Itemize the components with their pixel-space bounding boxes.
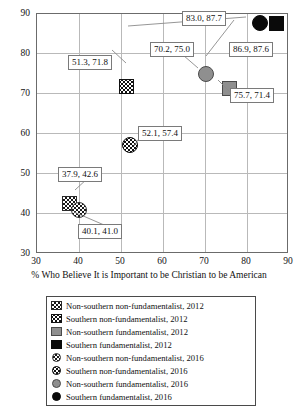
data-point-southern-fundamentalist-2012[interactable] (269, 16, 284, 31)
legend-item[interactable]: Non-southern non-fundamentalist, 2016 (51, 351, 255, 364)
legend-item[interactable]: Southern non-fundamentalist, 2012 (51, 312, 255, 325)
legend-item[interactable]: Southern fundamentalist, 2016 (51, 390, 255, 403)
callout-nonsouthern-fundamentalist-2016: 70.2, 75.0 (150, 42, 194, 57)
callout-southern-nonfundamentalist-2012: 51.3, 71.8 (68, 55, 112, 70)
legend-label: Non-southern fundamentalist, 2012 (66, 327, 188, 337)
legend-item[interactable]: Southern non-fundamentalist, 2016 (51, 364, 255, 377)
y-tick-label: 50 (6, 168, 30, 178)
legend-marker-circle-check-dark-icon (52, 366, 61, 375)
legend-marker-circle-black-icon (52, 392, 61, 401)
legend-marker-square-check-light-icon (51, 301, 62, 310)
data-point-southern-fundamentalist-2016[interactable] (252, 15, 268, 31)
x-tick-label: 90 (273, 256, 298, 266)
gridline-vertical (205, 14, 206, 252)
legend-item[interactable]: Non-southern non-fundamentalist, 2012 (51, 299, 255, 312)
x-tick-label: 30 (21, 256, 51, 266)
legend-label: Southern non-fundamentalist, 2016 (66, 366, 188, 376)
data-point-southern-nonfundamentalist-2012[interactable] (119, 79, 134, 94)
legend-label: Southern fundamentalist, 2016 (66, 392, 172, 402)
legend-marker-square-black-icon (51, 340, 62, 349)
scatter-chart: % Vote for GOP Presidential Candidate 90… (0, 0, 298, 412)
callout-southern-fundamentalist-2012: 86.9, 87.6 (229, 42, 273, 57)
y-tick-label: 90 (6, 8, 30, 18)
y-tick-label: 60 (6, 128, 30, 138)
legend-item[interactable]: Southern fundamentalist, 2012 (51, 338, 255, 351)
legend-marker-circle-check-light-icon (52, 353, 61, 362)
legend-label: Southern fundamentalist, 2012 (66, 340, 172, 350)
legend-label: Non-southern fundamentalist, 2016 (66, 379, 188, 389)
x-tick-label: 60 (147, 256, 177, 266)
legend-item[interactable]: Non-southern fundamentalist, 2016 (51, 377, 255, 390)
callout-nonsouthern-fundamentalist-2012: 75.7, 71.4 (230, 88, 274, 103)
legend-item[interactable]: Non-southern fundamentalist, 2012 (51, 325, 255, 338)
legend-label: Non-southern non-fundamentalist, 2016 (66, 353, 204, 363)
y-tick-label: 40 (6, 208, 30, 218)
legend-marker-square-gray-icon (51, 327, 62, 336)
callout-southern-fundamentalist-2016: 83.0, 87.7 (182, 11, 226, 26)
x-tick-label: 50 (105, 256, 135, 266)
callout-nonsouthern-nonfundamentalist-2016: 40.1, 41.0 (78, 224, 122, 239)
y-tick-label: 80 (6, 48, 30, 58)
x-tick-label: 80 (231, 256, 261, 266)
gridline-vertical (121, 14, 122, 252)
y-tick-label: 70 (6, 88, 30, 98)
legend-label: Non-southern non-fundamentalist, 2012 (66, 301, 204, 311)
x-axis-title: % Who Believe It is Important to be Chri… (0, 270, 298, 280)
callout-nonsouthern-nonfundamentalist-2012: 37.9, 42.6 (58, 167, 102, 182)
x-tick-label: 70 (189, 256, 219, 266)
x-tick-label: 40 (63, 256, 93, 266)
callout-southern-nonfundamentalist-2016: 52.1, 57.4 (138, 126, 182, 141)
data-point-nonsouthern-fundamentalist-2016[interactable] (198, 66, 214, 82)
legend-marker-square-check-dark-icon (51, 314, 62, 323)
data-point-nonsouthern-nonfundamentalist-2016[interactable] (71, 202, 87, 218)
chart-legend: Non-southern non-fundamentalist, 2012 So… (46, 296, 256, 406)
data-point-southern-nonfundamentalist-2016[interactable] (122, 137, 138, 153)
legend-label: Southern non-fundamentalist, 2012 (66, 314, 188, 324)
legend-marker-circle-gray-icon (52, 379, 61, 388)
